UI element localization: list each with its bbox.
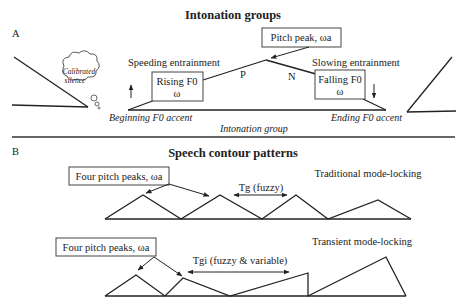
intonation-group-label: Intonation group (219, 123, 288, 134)
traditional-arrow-2-icon (169, 184, 209, 196)
transient-peaks-text: Four pitch peaks, ωa (63, 242, 150, 253)
falling-f0-box: Falling F0 ω (315, 70, 365, 99)
right-contour (407, 57, 456, 112)
p-label: P (240, 69, 246, 80)
slowing-entrainment-label: Slowing entrainment (312, 57, 400, 68)
rising-f0-text: Rising F0 (156, 76, 197, 87)
pitch-peak-box: Pitch peak, ωa (262, 28, 341, 47)
traditional-peaks-box: Four pitch peaks, ωa (69, 167, 169, 185)
beginning-f0-accent-label: Beginning F0 accent (109, 112, 193, 123)
transient-arrow-1-icon (138, 257, 154, 270)
pitch-peak-text: Pitch peak, ωa (271, 32, 332, 43)
tg-fuzzy-label: Tg (fuzzy) (239, 182, 284, 194)
figure-canvas: Intonation groups A Calibrated silence S… (0, 0, 465, 307)
transient-arrow-2-icon (154, 257, 182, 276)
ending-f0-accent-label: Ending F0 accent (330, 112, 402, 123)
traditional-contour (105, 195, 411, 219)
omega-symbol: ω (337, 86, 344, 97)
pitch-peak-arrow-icon (271, 47, 309, 58)
traditional-mode-locking-label: Traditional mode-locking (314, 168, 422, 179)
panel-b-label: B (12, 146, 19, 157)
diagram-svg: Intonation groups A Calibrated silence S… (0, 0, 465, 307)
panel-a-title: Intonation groups (185, 8, 281, 22)
cloud-text-line1: Calibrated (63, 67, 96, 76)
rising-f0-box: Rising F0 ω (152, 72, 203, 101)
traditional-peaks-text: Four pitch peaks, ωa (76, 171, 163, 182)
panel-a-label: A (12, 28, 20, 39)
panel-b-title: Speech contour patterns (168, 146, 298, 160)
transient-peaks-box: Four pitch peaks, ωa (56, 238, 156, 256)
transient-mode-locking-label: Transient mode-locking (312, 236, 413, 247)
omega-symbol: ω (174, 88, 181, 99)
falling-f0-text: Falling F0 (318, 74, 361, 85)
cloud-text-line2: silence (65, 76, 86, 85)
tgi-fuzzy-variable-label: Tgi (fuzzy & variable) (193, 255, 288, 267)
calibrated-silence-cloud: Calibrated silence (63, 51, 100, 109)
speeding-entrainment-label: Speeding entrainment (128, 57, 220, 68)
n-label: N (288, 71, 296, 82)
